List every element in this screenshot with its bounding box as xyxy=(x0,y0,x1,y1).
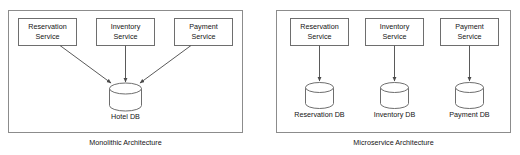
panel-microservice: Reservation Service Inventory Service Pa… xyxy=(277,11,511,147)
service-label-line2: Service xyxy=(383,32,407,41)
monolithic-service-inventory[interactable]: Inventory Service xyxy=(97,19,155,46)
caption-monolithic: Monolithic Architecture xyxy=(89,138,161,147)
database-label: Reservation DB xyxy=(294,110,345,119)
monolithic-service-payment[interactable]: Payment Service xyxy=(175,19,233,46)
cylinder-top xyxy=(306,83,334,93)
service-label-line1: Inventory xyxy=(111,22,141,31)
service-label-line1: Payment xyxy=(189,22,217,31)
microservice-service-inventory[interactable]: Inventory Service xyxy=(366,19,424,46)
monolithic-service-reservation[interactable]: Reservation Service xyxy=(19,19,77,46)
service-label-line1: Reservation xyxy=(300,22,338,31)
architecture-diagram-canvas: Reservation Service Inventory Service Pa… xyxy=(0,0,520,155)
database-label: Inventory DB xyxy=(374,110,416,119)
caption-microservice: Microservice Architecture xyxy=(353,138,433,147)
cylinder-top xyxy=(381,83,409,93)
microservice-service-payment[interactable]: Payment Service xyxy=(441,19,499,46)
service-label-line1: Inventory xyxy=(380,22,410,31)
service-label-line2: Service xyxy=(192,32,216,41)
service-label-line2: Service xyxy=(114,32,138,41)
service-label-line1: Payment xyxy=(455,22,483,31)
database-label: Hotel DB xyxy=(111,112,140,121)
panel-monolithic: Reservation Service Inventory Service Pa… xyxy=(9,11,243,147)
service-label-line2: Service xyxy=(36,32,60,41)
database-label: Payment DB xyxy=(449,110,490,119)
service-label-line2: Service xyxy=(458,32,482,41)
monolithic-database-hotel-db[interactable]: Hotel DB xyxy=(110,83,142,121)
cylinder-top xyxy=(110,83,142,94)
service-label-line1: Reservation xyxy=(28,22,66,31)
microservice-database-payment-db[interactable]: Payment DB xyxy=(449,83,490,120)
microservice-service-reservation[interactable]: Reservation Service xyxy=(291,19,349,46)
cylinder-top xyxy=(456,83,484,93)
service-label-line2: Service xyxy=(308,32,332,41)
